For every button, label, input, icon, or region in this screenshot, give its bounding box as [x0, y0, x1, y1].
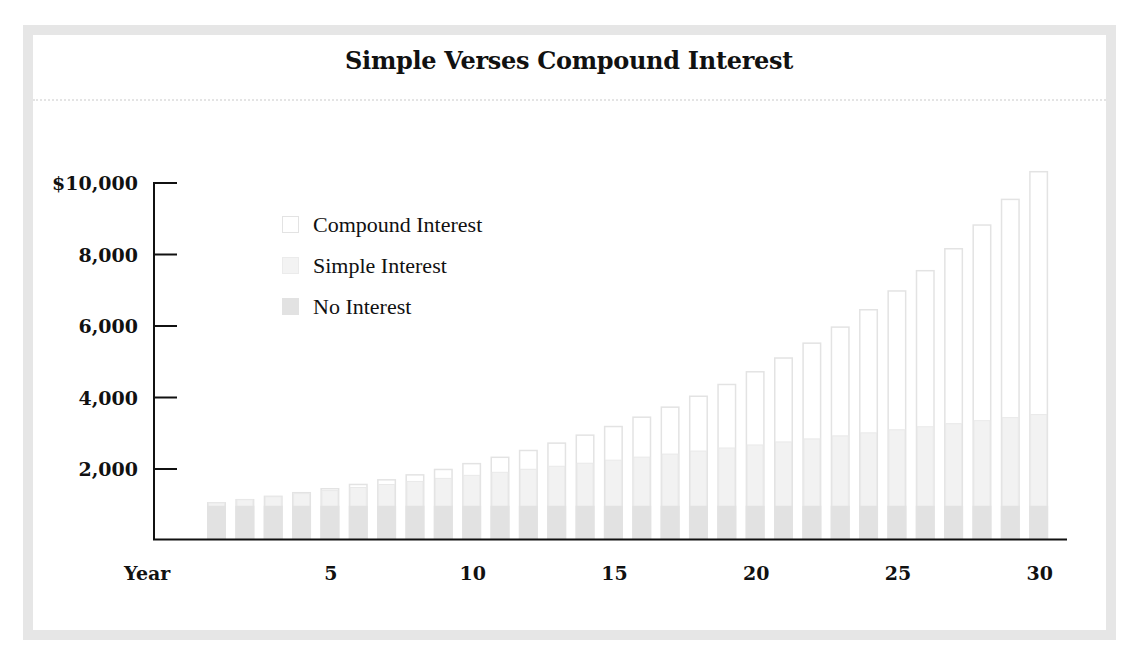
bar-year-9 — [434, 469, 453, 539]
bar-year-20 — [746, 372, 765, 539]
no-interest-segment — [576, 506, 595, 539]
no-interest-segment — [320, 506, 339, 539]
x-axis-label: Year — [123, 562, 171, 584]
no-interest-segment — [831, 506, 850, 539]
bar-year-25 — [887, 291, 906, 539]
no-interest-swatch-icon — [282, 298, 299, 315]
legend-item-simple: Simple Interest — [282, 245, 482, 286]
bar-year-6 — [349, 484, 368, 539]
y-tick-label: 2,000 — [79, 458, 139, 480]
y-tick-label: $10,000 — [52, 172, 138, 194]
no-interest-segment — [604, 506, 623, 539]
y-axis-ticks: $10,0008,0006,0004,0002,000 — [52, 172, 177, 480]
no-interest-segment — [661, 506, 680, 539]
bar-year-23 — [831, 327, 850, 539]
bar-year-13 — [547, 443, 566, 539]
bar-year-30 — [1029, 172, 1048, 539]
legend-item-compound: Compound Interest — [282, 204, 482, 245]
bar-year-17 — [661, 407, 680, 539]
no-interest-segment — [916, 506, 935, 539]
x-tick-label: 15 — [601, 562, 627, 584]
no-interest-segment — [519, 506, 538, 539]
bar-year-2 — [235, 500, 254, 539]
no-interest-segment — [774, 506, 793, 539]
bar-year-26 — [916, 271, 935, 539]
no-interest-segment — [944, 506, 963, 539]
no-interest-segment — [1001, 506, 1020, 539]
no-interest-segment — [264, 506, 283, 539]
bar-year-16 — [632, 417, 651, 539]
bar-year-11 — [491, 457, 510, 539]
no-interest-segment — [972, 506, 991, 539]
no-interest-segment — [689, 506, 708, 539]
no-interest-segment — [746, 506, 765, 539]
no-interest-segment — [349, 506, 368, 539]
bar-year-10 — [462, 464, 481, 539]
bar-year-5 — [320, 489, 339, 539]
no-interest-segment — [491, 506, 510, 539]
simple-swatch-icon — [282, 257, 299, 274]
no-interest-segment — [235, 506, 254, 539]
no-interest-segment — [1029, 506, 1048, 539]
no-interest-segment — [632, 506, 651, 539]
x-tick-label: 30 — [1026, 562, 1052, 584]
legend-label: Compound Interest — [313, 212, 482, 238]
bar-year-22 — [802, 343, 821, 539]
compound-swatch-icon — [282, 216, 299, 233]
no-interest-segment — [717, 506, 736, 539]
no-interest-segment — [434, 506, 453, 539]
x-tick-label: 5 — [324, 562, 337, 584]
y-tick-label: 8,000 — [79, 244, 139, 266]
bar-year-29 — [1001, 199, 1020, 539]
bar-year-12 — [519, 450, 538, 539]
bar-year-24 — [859, 310, 878, 539]
no-interest-segment — [377, 506, 396, 539]
bar-year-28 — [972, 225, 991, 539]
bar-year-7 — [377, 480, 396, 539]
no-interest-segment — [292, 506, 311, 539]
legend-label: Simple Interest — [313, 253, 447, 279]
bar-year-15 — [604, 427, 623, 539]
no-interest-segment — [802, 506, 821, 539]
bar-year-21 — [774, 358, 793, 539]
bar-year-18 — [689, 396, 708, 539]
bar-year-19 — [717, 384, 736, 539]
bar-year-3 — [264, 496, 283, 539]
no-interest-segment — [462, 506, 481, 539]
bar-year-4 — [292, 493, 311, 539]
legend-item-no-interest: No Interest — [282, 286, 482, 327]
x-tick-label: 20 — [743, 562, 769, 584]
no-interest-segment — [859, 506, 878, 539]
no-interest-segment — [207, 506, 226, 539]
bar-year-1 — [207, 503, 226, 539]
legend: Compound Interest Simple Interest No Int… — [282, 204, 482, 327]
bar-year-14 — [576, 435, 595, 539]
y-tick-label: 4,000 — [79, 387, 139, 409]
y-tick-label: 6,000 — [79, 315, 139, 337]
chart-plot: $10,0008,0006,0004,0002,000 51015202530 … — [0, 0, 1138, 662]
x-axis-ticks: 51015202530 — [324, 562, 1053, 584]
x-tick-label: 10 — [459, 562, 485, 584]
bar-year-8 — [405, 475, 424, 539]
no-interest-segment — [547, 506, 566, 539]
no-interest-segment — [405, 506, 424, 539]
legend-label: No Interest — [313, 294, 411, 320]
x-tick-label: 25 — [885, 562, 911, 584]
no-interest-segment — [887, 506, 906, 539]
bar-year-27 — [944, 249, 963, 539]
